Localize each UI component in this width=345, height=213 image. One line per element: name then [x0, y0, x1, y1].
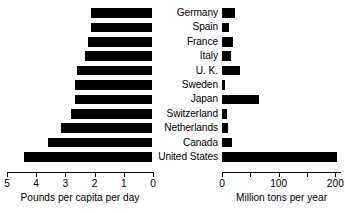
- axis-tick-label: 0: [212, 178, 232, 189]
- right-bar-track: [222, 78, 342, 92]
- left-axis: 543210Pounds per capita per day: [7, 172, 153, 212]
- category-label: Switzerland: [154, 107, 218, 121]
- axis-tick: [279, 172, 280, 177]
- axis-tick-label: 100: [269, 178, 289, 189]
- chart-row: Germany: [0, 6, 345, 20]
- axis-title: Million tons per year: [222, 192, 341, 204]
- axis-tick: [335, 172, 336, 177]
- left-bar: [75, 80, 152, 90]
- right-bar-track: [222, 107, 342, 121]
- left-bar-track: [7, 107, 152, 121]
- axis-tick: [307, 172, 308, 177]
- chart-row: Netherlands: [0, 121, 345, 135]
- left-bar: [75, 95, 152, 105]
- chart-row: Spain: [0, 20, 345, 34]
- axis-tick: [36, 172, 37, 177]
- left-bar: [77, 66, 152, 76]
- left-bar: [48, 138, 152, 148]
- left-bar-track: [7, 136, 152, 150]
- category-label: Japan: [154, 92, 218, 106]
- axis-tick-label: 3: [55, 178, 75, 189]
- axis-title: Pounds per capita per day: [7, 192, 153, 204]
- right-bar: [222, 80, 225, 90]
- axis-tick: [7, 172, 8, 177]
- chart-row: Japan: [0, 92, 345, 106]
- right-bar: [222, 152, 337, 162]
- right-axis: 0100200Million tons per year: [222, 172, 341, 212]
- axis-line: [222, 172, 341, 173]
- chart-row: Italy: [0, 49, 345, 63]
- left-bar-track: [7, 6, 152, 20]
- axis-tick: [153, 172, 154, 177]
- axis-tick: [222, 172, 223, 177]
- right-bar: [222, 123, 228, 133]
- left-bar: [88, 37, 152, 47]
- category-label: Netherlands: [154, 121, 218, 135]
- right-bar: [222, 95, 259, 105]
- left-bar-track: [7, 64, 152, 78]
- chart-row: Canada: [0, 136, 345, 150]
- chart-row: U. K.: [0, 64, 345, 78]
- left-bar-track: [7, 78, 152, 92]
- left-bar-track: [7, 121, 152, 135]
- category-label: France: [154, 35, 218, 49]
- axis-tick-label: 4: [26, 178, 46, 189]
- axis-tick-label: 1: [114, 178, 134, 189]
- right-bar-track: [222, 150, 342, 164]
- axis-tick: [250, 172, 251, 177]
- left-bar-track: [7, 35, 152, 49]
- category-label: Spain: [154, 20, 218, 34]
- axis-tick-label: 200: [325, 178, 345, 189]
- right-bar: [222, 66, 240, 76]
- category-label: Canada: [154, 136, 218, 150]
- left-bar-track: [7, 20, 152, 34]
- right-bar-track: [222, 20, 342, 34]
- right-bar-track: [222, 92, 342, 106]
- right-bar: [222, 138, 232, 148]
- left-bar: [85, 51, 152, 61]
- plot-area: GermanySpainFranceItalyU. K.SwedenJapanS…: [0, 6, 345, 166]
- right-bar-track: [222, 64, 342, 78]
- axis-tick-label: 5: [0, 178, 17, 189]
- left-bar: [71, 109, 152, 119]
- category-label: Italy: [154, 49, 218, 63]
- category-label: United States: [154, 150, 218, 164]
- left-bar-track: [7, 49, 152, 63]
- right-bar-track: [222, 136, 342, 150]
- left-bar: [61, 123, 152, 133]
- chart-row: United States: [0, 150, 345, 164]
- right-bar: [222, 109, 227, 119]
- chart-row: Sweden: [0, 78, 345, 92]
- left-bar-track: [7, 92, 152, 106]
- axis-tick: [65, 172, 66, 177]
- left-bar: [24, 152, 152, 162]
- left-bar-track: [7, 150, 152, 164]
- right-bar: [222, 51, 231, 61]
- right-bar: [222, 23, 229, 33]
- chart-row: France: [0, 35, 345, 49]
- right-bar-track: [222, 49, 342, 63]
- right-bar: [222, 8, 235, 18]
- category-label: U. K.: [154, 64, 218, 78]
- category-label: Sweden: [154, 78, 218, 92]
- axis-tick: [124, 172, 125, 177]
- right-bar-track: [222, 6, 342, 20]
- waste-generation-bar-chart: GermanySpainFranceItalyU. K.SwedenJapanS…: [0, 0, 345, 213]
- category-label: Germany: [154, 6, 218, 20]
- left-bar: [91, 23, 152, 33]
- axis-tick-label: 0: [143, 178, 163, 189]
- axis-line: [7, 172, 153, 173]
- left-bar: [91, 8, 152, 18]
- right-bar-track: [222, 35, 342, 49]
- axis-tick: [95, 172, 96, 177]
- chart-row: Switzerland: [0, 107, 345, 121]
- right-bar-track: [222, 121, 342, 135]
- right-bar: [222, 37, 233, 47]
- axis-tick-label: 2: [85, 178, 105, 189]
